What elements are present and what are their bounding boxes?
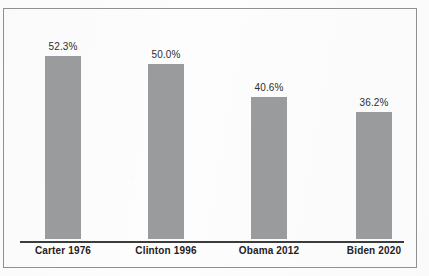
- x-axis-category-label: Biden 2020: [347, 245, 401, 256]
- x-axis-category-label: Obama 2012: [239, 245, 299, 256]
- cropped-text-bleed: —: [6, 0, 421, 5]
- bar[interactable]: [45, 56, 81, 239]
- chart-frame: 52.3%Carter 197650.0%Clinton 199640.6%Ob…: [3, 8, 417, 268]
- bar-value-label: 36.2%: [360, 97, 389, 108]
- x-axis-category-label: Carter 1976: [35, 245, 91, 256]
- bar[interactable]: [356, 112, 392, 239]
- bar[interactable]: [148, 64, 184, 239]
- bar-chart-plot-area: 52.3%Carter 197650.0%Clinton 199640.6%Ob…: [4, 9, 416, 267]
- bar-value-label: 40.6%: [255, 82, 284, 93]
- cropped-text-bleed-line: —: [6, 0, 421, 4]
- scanned-page: — 52.3%Carter 197650.0%Clinton 199640.6%…: [0, 0, 429, 276]
- bar-value-label: 52.3%: [49, 41, 78, 52]
- bar[interactable]: [251, 97, 287, 239]
- x-axis-category-label: Clinton 1996: [135, 245, 196, 256]
- bar-value-label: 50.0%: [152, 49, 181, 60]
- x-axis-baseline: [20, 241, 404, 243]
